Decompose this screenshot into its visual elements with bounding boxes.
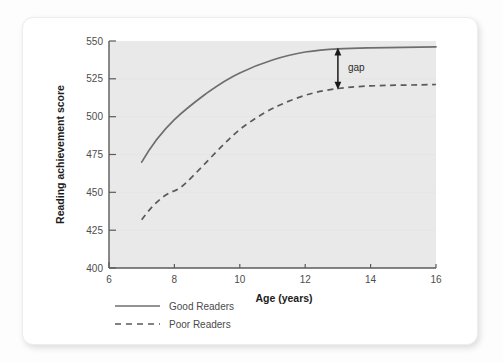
y-tick-label-450: 450 <box>86 187 103 198</box>
x-tick-label-14: 14 <box>365 274 377 285</box>
y-tick-label-525: 525 <box>86 73 103 84</box>
x-axis-title: Age (years) <box>255 292 312 304</box>
y-tick-label-400: 400 <box>86 263 103 274</box>
figure-card: 550 525 500 475 450 425 400 6 8 10 12 14… <box>22 17 478 345</box>
x-tick-label-10: 10 <box>234 274 246 285</box>
x-tick-label-16: 16 <box>430 274 442 285</box>
gap-annotation-label: gap <box>348 62 365 73</box>
reading-achievement-line-chart: 550 525 500 475 450 425 400 6 8 10 12 14… <box>23 18 479 346</box>
chart-legend: Good Readers Poor Readers <box>115 301 234 330</box>
x-tick-label-12: 12 <box>300 274 312 285</box>
y-tick-label-475: 475 <box>86 149 103 160</box>
legend-label-poor-readers: Poor Readers <box>169 319 231 330</box>
y-tick-label-500: 500 <box>86 111 103 122</box>
x-tick-label-8: 8 <box>172 274 178 285</box>
y-tick-label-425: 425 <box>86 225 103 236</box>
y-axis-title: Reading achievement score <box>54 85 66 224</box>
legend-label-good-readers: Good Readers <box>169 301 234 312</box>
page-background: 550 525 500 475 450 425 400 6 8 10 12 14… <box>0 0 503 362</box>
x-tick-label-6: 6 <box>106 274 112 285</box>
y-tick-label-550: 550 <box>86 36 103 47</box>
